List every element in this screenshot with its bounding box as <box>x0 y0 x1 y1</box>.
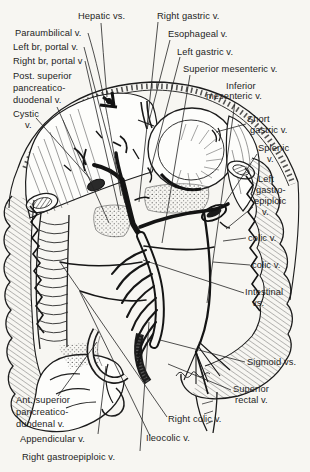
label-line: duodenal v. <box>16 419 64 429</box>
label-post-superior-pancreaticoduodenal: Post. superior pancreatico- duodenal v. <box>13 71 72 105</box>
label-line: Ant. superior <box>16 395 70 405</box>
leader-colic-upper <box>223 238 246 241</box>
label-line: Left <box>258 174 274 184</box>
label-line: pancreatico- <box>13 83 65 93</box>
label-line: Post. superior <box>13 71 72 81</box>
portal-venous-system-figure: Hepatic vs. Paraumbilical v. Left br, po… <box>0 0 310 472</box>
label-line: mesenteric v. <box>206 91 262 101</box>
scanned-figure-page: Hepatic vs. Paraumbilical v. Left br, po… <box>0 0 310 472</box>
label-line: gastric v. <box>250 125 288 135</box>
label-line: v. <box>267 154 274 164</box>
label-ileocolic: Ileocolic v. <box>146 433 190 443</box>
label-line: epiploic <box>254 196 287 206</box>
label-esophageal: Esophageal v. <box>168 29 228 39</box>
label-appendicular: Appendicular v. <box>20 434 85 444</box>
label-line: Cystic <box>13 109 39 119</box>
ileum-circular-folds <box>37 221 69 341</box>
label-right-gastric: Right gastric v. <box>157 11 219 21</box>
right-colic-vein <box>60 262 142 266</box>
ileocolic-vein <box>80 291 146 301</box>
label-left-branch-portal: Left br, portal v. <box>13 42 78 52</box>
label-superior-rectal: Superior rectal v. <box>233 384 269 405</box>
label-line: rectal v. <box>235 395 268 405</box>
label-line: gastro- <box>256 185 286 195</box>
label-colic-lower: colic v. <box>252 260 281 270</box>
label-line: Superior <box>233 384 269 394</box>
labels: Hepatic vs. Paraumbilical v. Left br, po… <box>13 11 296 462</box>
pancreas-head-stipple <box>94 205 131 237</box>
label-inferior-mesenteric: Inferior mesenteric v. <box>206 81 262 101</box>
middle-colic-vein <box>144 246 214 250</box>
label-line: duodenal v. <box>13 95 61 105</box>
label-right-branch-portal: Right br, portal v <box>13 56 83 66</box>
label-line: v. <box>25 120 32 130</box>
label-line: Short <box>247 114 270 124</box>
leader-hepatic-veins <box>101 23 107 97</box>
ileum-right-edge <box>67 215 69 347</box>
label-short-gastric: Short gastric v. <box>247 114 288 135</box>
label-line: v. <box>262 207 269 217</box>
stomach <box>148 108 236 190</box>
label-ant-superior-pancreaticoduodenal: Ant. superior pancreatico- duodenal v. <box>16 395 70 429</box>
inferior-mesenteric-vein <box>196 213 210 352</box>
label-line: Inferior <box>226 81 256 91</box>
label-line: Splenic <box>258 143 289 153</box>
label-colic-upper: colic v. <box>248 233 277 243</box>
label-paraumbilical: Paraumbilical v. <box>15 28 82 38</box>
label-right-colic: Right colic v. <box>168 414 221 424</box>
label-line: pancreatico- <box>16 407 68 417</box>
label-line: vs. <box>252 298 264 308</box>
label-cystic: Cystic v. <box>13 109 39 130</box>
body-right-edge <box>290 182 299 300</box>
leader-sigmoid <box>160 340 245 362</box>
leader-left-gastroepiploic <box>226 207 253 229</box>
pancreas-body-stipple <box>145 184 209 213</box>
label-line: Intestinal <box>245 287 283 297</box>
label-left-gastric: Left gastric v. <box>177 47 233 57</box>
label-superior-mesenteric: Superior mesenteric v. <box>183 64 278 74</box>
label-sigmoid: Sigmoid vs. <box>247 357 296 367</box>
leader-colic-lower <box>213 262 250 265</box>
pancreas <box>94 184 209 237</box>
label-right-gastroepiploic: Right gastroepiploic v. <box>22 452 115 462</box>
label-hepatic-veins: Hepatic vs. <box>78 11 125 21</box>
